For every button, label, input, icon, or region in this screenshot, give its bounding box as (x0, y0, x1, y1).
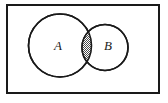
set-label-a: A (53, 38, 62, 53)
venn-diagram-canvas: A B (0, 0, 168, 103)
venn-diagram-figure: A B (0, 0, 168, 103)
set-label-b: B (104, 38, 112, 53)
